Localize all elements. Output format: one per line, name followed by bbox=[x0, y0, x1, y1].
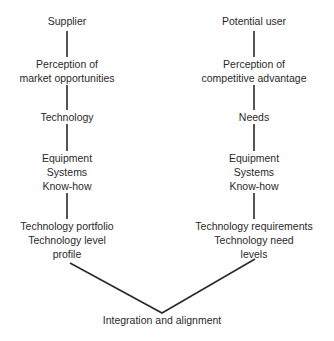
portfolio-line-1: Technology portfolio bbox=[20, 219, 113, 233]
systems-label: Systems bbox=[229, 165, 279, 179]
integration-label: Integration and alignment bbox=[103, 313, 222, 327]
portfolio-line-2: Technology level bbox=[20, 233, 113, 247]
perception-line-1: Perception of bbox=[19, 57, 114, 71]
perception-line-2: market opportunities bbox=[19, 71, 114, 85]
equipment-label: Equipment bbox=[229, 151, 279, 165]
technology-node: Technology bbox=[40, 110, 93, 124]
potential-user-node: Potential user bbox=[222, 14, 286, 28]
supplier-assets-node: Equipment Systems Know-how bbox=[42, 151, 92, 193]
user-label: Potential user bbox=[222, 14, 286, 28]
user-assets-node: Equipment Systems Know-how bbox=[229, 151, 279, 193]
requirements-line-1: Technology requirements bbox=[195, 219, 312, 233]
technology-label: Technology bbox=[40, 110, 93, 124]
supplier-node: Supplier bbox=[48, 14, 87, 28]
supplier-label: Supplier bbox=[48, 14, 87, 28]
know-how-label: Know-how bbox=[42, 179, 92, 193]
know-how-label: Know-how bbox=[229, 179, 279, 193]
perception-line-1: Perception of bbox=[201, 57, 306, 71]
requirements-line-2: Technology need bbox=[195, 233, 312, 247]
requirements-line-3: levels bbox=[195, 247, 312, 261]
market-perception-node: Perception of market opportunities bbox=[19, 57, 114, 85]
equipment-label: Equipment bbox=[42, 151, 92, 165]
portfolio-line-3: profile bbox=[20, 247, 113, 261]
needs-label: Needs bbox=[239, 110, 269, 124]
competitive-perception-node: Perception of competitive advantage bbox=[201, 57, 306, 85]
needs-node: Needs bbox=[239, 110, 269, 124]
convergence-lines bbox=[70, 259, 255, 313]
perception-line-2: competitive advantage bbox=[201, 71, 306, 85]
technology-requirements-node: Technology requirements Technology need … bbox=[195, 219, 312, 261]
systems-label: Systems bbox=[42, 165, 92, 179]
technology-portfolio-node: Technology portfolio Technology level pr… bbox=[20, 219, 113, 261]
integration-node: Integration and alignment bbox=[103, 313, 222, 327]
